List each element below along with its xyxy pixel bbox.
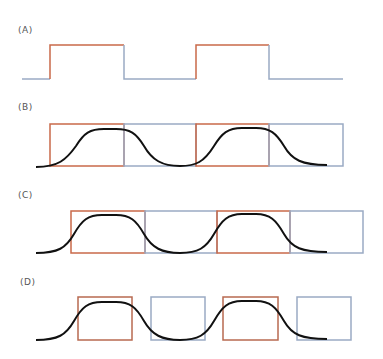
on-box-1 bbox=[71, 211, 145, 253]
on-box-2 bbox=[196, 124, 269, 166]
response-curve bbox=[36, 128, 327, 167]
response-curve bbox=[36, 214, 327, 253]
baseline-off-2 bbox=[124, 45, 196, 79]
baseline-off-3 bbox=[269, 45, 343, 79]
on-box-1 bbox=[50, 124, 124, 166]
off-box-1 bbox=[124, 124, 196, 166]
panel-c bbox=[36, 211, 363, 253]
off-box-2 bbox=[290, 211, 363, 253]
off-box-2 bbox=[269, 124, 343, 166]
off-box-1 bbox=[151, 297, 205, 340]
response-curve bbox=[36, 301, 327, 340]
panel-d bbox=[36, 297, 351, 340]
pulse-on-1 bbox=[50, 45, 124, 79]
panel-b bbox=[36, 124, 343, 167]
diagram-canvas bbox=[0, 0, 383, 359]
off-box-2 bbox=[297, 297, 351, 340]
pulse-on-2 bbox=[196, 45, 269, 79]
panel-a-square-wave bbox=[22, 45, 343, 79]
